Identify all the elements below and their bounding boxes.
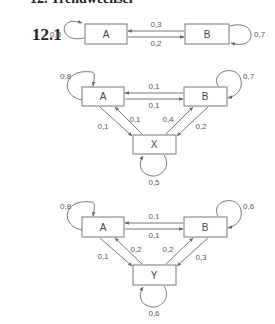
loop-b-label: 0,7 xyxy=(254,30,266,39)
node-a-label: A xyxy=(100,91,107,102)
node-a-label: A xyxy=(100,222,107,233)
edge-x-b-label: 0,4 xyxy=(162,115,174,124)
node-x: X xyxy=(133,135,176,154)
edge-a-b-label: 0,2 xyxy=(150,39,162,48)
node-b: B xyxy=(184,217,227,237)
diagram-3: 0,8 A B 0,6 0,1 0,1 Y 0,1 0,2 0, xyxy=(60,201,255,318)
self-loop-b xyxy=(230,25,251,45)
edge-a-x-label: 0,1 xyxy=(97,122,109,131)
edge-b-a-label: 0,1 xyxy=(148,82,160,91)
diagram-2: 0,8 A B 0,7 0,1 0,1 X 0,1 0,1 0, xyxy=(60,71,255,187)
loop-a-label: 0,8 xyxy=(50,30,62,39)
self-loop-a xyxy=(64,21,84,38)
loop-a-label: 0,8 xyxy=(60,202,72,211)
loop-a-label: 0,8 xyxy=(60,72,72,81)
loop-x-label: 0,5 xyxy=(148,178,160,187)
loop-b-label: 0,7 xyxy=(243,72,255,81)
edge-y-b-label: 0,2 xyxy=(162,245,174,254)
edge-a-b-label: 0,1 xyxy=(148,101,160,110)
node-b: B xyxy=(185,24,229,44)
markov-diagrams: 0,8 A B 0,7 0,3 0,2 0,8 A B xyxy=(0,0,275,324)
edge-x-a-label: 0,1 xyxy=(129,115,141,124)
diagram-1: 0,8 A B 0,7 0,3 0,2 xyxy=(50,20,266,48)
edge-b-x-label: 0,2 xyxy=(195,122,207,131)
node-a: A xyxy=(82,87,124,106)
edge-b-a-label: 0,3 xyxy=(150,20,162,29)
edge-a-y-label: 0,1 xyxy=(97,252,109,261)
loop-y-label: 0,6 xyxy=(148,309,160,318)
node-b-label: B xyxy=(202,222,209,233)
node-y: Y xyxy=(133,265,176,285)
loop-b-label: 0,6 xyxy=(243,202,255,211)
node-b-label: B xyxy=(202,91,209,102)
edge-b-a-label: 0,1 xyxy=(148,212,160,221)
node-b: B xyxy=(184,87,227,106)
node-a: A xyxy=(85,24,127,44)
node-b-label: B xyxy=(204,29,211,40)
edge-a-b-label: 0,1 xyxy=(148,231,160,240)
self-loop-y xyxy=(140,286,166,307)
edge-y-a-label: 0,2 xyxy=(130,245,142,254)
node-x-label: X xyxy=(151,139,158,150)
node-a: A xyxy=(82,217,124,237)
node-y-label: Y xyxy=(151,270,158,281)
edge-b-y-label: 0,3 xyxy=(195,253,207,262)
self-loop-x xyxy=(140,155,166,176)
node-a-label: A xyxy=(103,29,110,40)
